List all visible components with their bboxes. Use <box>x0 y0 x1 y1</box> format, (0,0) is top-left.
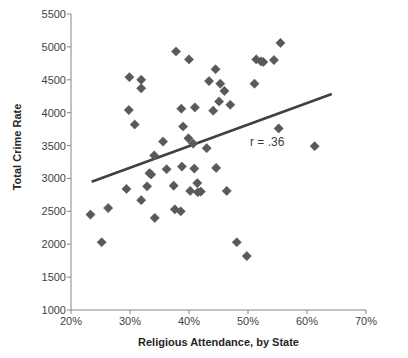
x-axis-tick-labels: 20%30%40%50%60%70% <box>0 316 408 332</box>
y-tick-label: 1500 <box>22 272 66 283</box>
data-points <box>86 38 319 260</box>
y-tick-label: 5500 <box>22 9 66 20</box>
y-tick-label: 2000 <box>22 239 66 250</box>
y-tick-label: 3000 <box>22 173 66 184</box>
y-axis-title: Total Crime Rate <box>11 87 23 207</box>
x-tick-label: 30% <box>110 316 150 327</box>
axes <box>71 14 366 310</box>
x-tick-label: 40% <box>169 316 209 327</box>
y-tick-label: 2500 <box>22 206 66 217</box>
x-tick-label: 20% <box>51 316 91 327</box>
scatter-plot-figure: 1000150020002500300035004000450050005500… <box>0 0 408 358</box>
correlation-annotation: r = .36 <box>250 135 284 149</box>
x-tick-label: 70% <box>346 316 386 327</box>
x-axis-title: Religious Attendance, by State <box>61 336 376 348</box>
y-tick-label: 5000 <box>22 42 66 53</box>
x-tick-label: 50% <box>228 316 268 327</box>
y-tick-label: 3500 <box>22 141 66 152</box>
y-tick-label: 4000 <box>22 108 66 119</box>
x-tick-label: 60% <box>287 316 327 327</box>
y-tick-label: 4500 <box>22 75 66 86</box>
y-axis-tick-labels: 1000150020002500300035004000450050005500 <box>18 0 66 358</box>
